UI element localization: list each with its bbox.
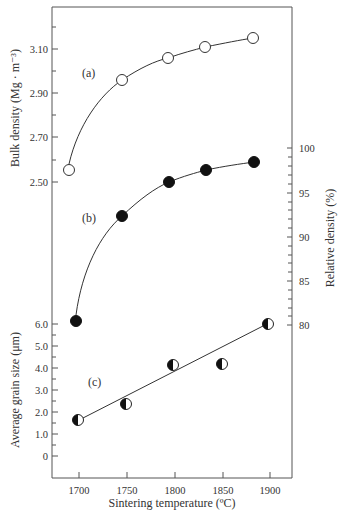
tick-label: 3.10	[30, 44, 48, 55]
data-point	[164, 177, 175, 188]
series-b: (b)	[71, 157, 260, 327]
data-point	[249, 157, 260, 168]
tick-label: 1800	[165, 485, 186, 496]
data-point	[200, 42, 211, 53]
left-upper-axis-title: Bulk density (Mg · m⁻³)	[8, 49, 22, 167]
x-axis-title: Sintering temperature (ºC)	[108, 496, 235, 510]
tick-label: 4.0	[35, 363, 48, 374]
tick-label: 95	[299, 188, 310, 199]
data-point	[217, 359, 228, 370]
tick-label: 90	[299, 232, 310, 243]
left-upper-tick-labels: 3.10 2.90 2.70 2.50	[30, 44, 48, 188]
series-a: (a)	[64, 33, 259, 176]
right-ticks	[287, 148, 292, 325]
tick-label: 2.0	[35, 407, 48, 418]
tick-label: 85	[299, 276, 310, 287]
x-ticks	[79, 472, 270, 478]
data-point	[163, 53, 174, 64]
series-c: (c)	[73, 319, 274, 426]
tick-label: 1750	[117, 485, 138, 496]
tick-label: 1900	[260, 485, 281, 496]
series-c-label: (c)	[88, 375, 101, 389]
right-tick-labels: 100 95 90 85 80	[299, 143, 315, 331]
tick-label: 100	[299, 143, 315, 154]
data-point	[64, 165, 75, 176]
left-lower-ticks	[52, 324, 58, 456]
data-point	[248, 33, 259, 44]
tick-label: 0	[43, 451, 48, 462]
tick-label: 1.0	[35, 429, 48, 440]
data-point	[121, 399, 132, 410]
tick-label: 3.0	[35, 385, 48, 396]
series-c-fit-line	[83, 326, 263, 418]
tick-label: 2.70	[30, 132, 48, 143]
tick-label: 1700	[69, 485, 90, 496]
data-point	[168, 360, 179, 371]
series-a-label: (a)	[82, 66, 95, 80]
right-axis-title: Relative density (%)	[323, 189, 337, 288]
data-point	[201, 165, 212, 176]
series-a-curve	[69, 38, 253, 164]
tick-label: 80	[299, 320, 310, 331]
tick-label: 5.0	[35, 341, 48, 352]
tick-label: 2.50	[30, 177, 48, 188]
data-point	[117, 211, 128, 222]
tick-label: 2.90	[30, 88, 48, 99]
data-point	[117, 75, 128, 86]
left-lower-tick-labels: 6.0 5.0 4.0 3.0 2.0 1.0 0	[35, 319, 48, 462]
series-b-label: (b)	[82, 211, 96, 225]
data-point	[73, 415, 84, 426]
left-upper-ticks	[52, 27, 58, 182]
data-point	[263, 319, 274, 330]
tick-label: 6.0	[35, 319, 48, 330]
tick-label: 1850	[213, 485, 234, 496]
chart: 3.10 2.90 2.70 2.50 Bulk density (Mg · m…	[0, 0, 345, 511]
data-point	[71, 316, 82, 327]
x-tick-labels: 1700 1750 1800 1850 1900	[69, 485, 281, 496]
left-lower-axis-title: Average grain size (μm)	[8, 332, 22, 448]
